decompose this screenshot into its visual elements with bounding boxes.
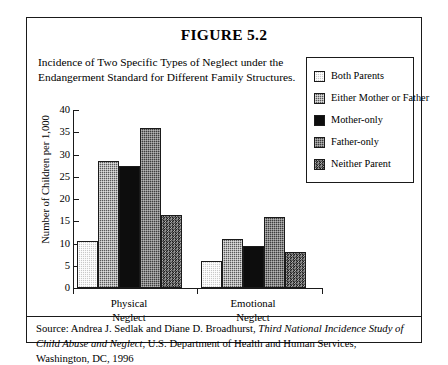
category-label-line: Emotional [198, 297, 308, 311]
legend-swatch-icon [314, 71, 325, 82]
x-axis-tick-mid [197, 289, 198, 294]
legend-swatch-icon [314, 159, 325, 170]
bar [264, 217, 285, 288]
y-tick-label-5: 5 [65, 260, 70, 271]
bar [119, 166, 140, 288]
bar [98, 161, 119, 288]
figure-title: FIGURE 5.2 [27, 26, 421, 44]
legend-swatch-icon [314, 137, 325, 148]
bar [285, 252, 306, 288]
y-tick-label-35: 35 [59, 127, 70, 138]
source-note: Source: Andrea J. Sedlak and Diane D. Br… [36, 321, 412, 365]
legend-item-neither-parent[interactable]: Neither Parent [314, 153, 407, 175]
bar [201, 261, 222, 288]
legend-label: Neither Parent [331, 159, 391, 169]
legend-label: Father-only [331, 137, 379, 147]
bar-group-emotional-neglect [201, 217, 306, 288]
y-tick-label-25: 25 [59, 171, 70, 182]
chart-legend: Both ParentsEither Mother or FatherMothe… [306, 57, 414, 183]
y-tick-label-15: 15 [59, 216, 70, 227]
y-tick-label-30: 30 [59, 149, 70, 160]
bar [161, 215, 182, 288]
legend-item-mother-only[interactable]: Mother-only [314, 109, 407, 131]
source-divider [27, 316, 421, 317]
bar [140, 128, 161, 288]
figure-frame: FIGURE 5.2 Incidence of Two Specific Typ… [26, 17, 422, 343]
legend-label: Mother-only [331, 115, 383, 125]
category-label-line: Physical [74, 297, 184, 311]
legend-swatch-icon [314, 93, 325, 104]
y-axis-line [73, 110, 74, 289]
y-tick-label-40: 40 [59, 105, 70, 116]
x-axis-tick-start [73, 289, 74, 294]
bar [243, 246, 264, 288]
bar [77, 241, 98, 288]
legend-label: Either Mother or Father [331, 93, 429, 103]
legend-swatch-icon [314, 115, 325, 126]
legend-item-both-parents[interactable]: Both Parents [314, 65, 407, 87]
legend-label: Both Parents [331, 71, 384, 81]
source-prefix: Source: Andrea J. Sedlak and Diane D. Br… [36, 322, 258, 334]
y-tick-label-20: 20 [59, 194, 70, 205]
y-axis-ticks: 0510152025303540 [41, 110, 73, 289]
y-tick-label-10: 10 [59, 238, 70, 249]
y-tick-label-0: 0 [65, 283, 70, 294]
bar-group-physical-neglect [77, 128, 182, 288]
legend-item-father-only[interactable]: Father-only [314, 131, 407, 153]
x-axis-tick-end [322, 289, 323, 294]
legend-item-either-mother-or-father[interactable]: Either Mother or Father [314, 87, 407, 109]
figure-subtitle: Incidence of Two Specific Types of Negle… [38, 55, 338, 85]
bar [222, 239, 243, 288]
